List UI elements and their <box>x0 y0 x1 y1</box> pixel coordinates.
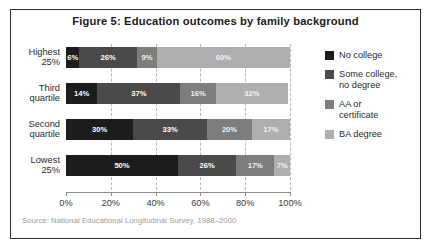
legend-item: Some college,no degree <box>325 69 417 90</box>
bar-row: 30%33%20%17% <box>66 119 290 140</box>
legend-swatch <box>325 51 334 60</box>
legend-label-line: AA or <box>339 99 378 109</box>
category-label-line: 25% <box>0 57 60 68</box>
legend-label-line: certificate <box>339 110 378 120</box>
bar-segment: 17% <box>252 119 290 140</box>
bar-segment: 60% <box>157 47 290 68</box>
bar-segment: 30% <box>66 119 133 140</box>
category-label-line: Lowest <box>0 155 60 166</box>
legend-swatch <box>325 100 334 109</box>
x-axis-tick-label: 40% <box>146 198 164 208</box>
x-axis-tick-label: 60% <box>191 198 209 208</box>
x-axis-tick <box>111 192 112 196</box>
bar-segment: 6% <box>66 47 79 68</box>
plot-area: 6%26%9%60%14%37%16%32%30%33%20%17%50%26%… <box>66 44 290 190</box>
bar-segment: 9% <box>137 47 157 68</box>
bar-segment: 37% <box>97 83 180 104</box>
x-axis-line <box>66 192 290 193</box>
legend-label-line: Some college, <box>339 69 397 79</box>
legend-label: AA orcertificate <box>339 99 378 120</box>
bar-rows: 6%26%9%60%14%37%16%32%30%33%20%17%50%26%… <box>66 44 290 190</box>
x-axis-tick-label: 20% <box>102 198 120 208</box>
bar-segment: 20% <box>207 119 252 140</box>
category-label-line: Third <box>0 83 60 94</box>
category-label-line: quartile <box>0 93 60 104</box>
chart-legend: No collegeSome college,no degreeAA orcer… <box>325 50 417 148</box>
legend-swatch <box>325 130 334 139</box>
category-label: Thirdquartile <box>0 83 60 104</box>
x-axis-tick <box>245 192 246 196</box>
category-label-line: Second <box>0 119 60 130</box>
bar-segment: 16% <box>180 83 216 104</box>
bar-segment: 26% <box>79 47 137 68</box>
x-axis-tick-label: 0% <box>59 198 72 208</box>
bar-segment: 14% <box>66 83 97 104</box>
bar-segment: 50% <box>66 155 178 176</box>
legend-item: AA orcertificate <box>325 99 417 120</box>
legend-item: BA degree <box>325 129 417 139</box>
bar-segment: 26% <box>178 155 236 176</box>
legend-label-line: No college <box>339 50 382 60</box>
legend-label: No college <box>339 50 382 60</box>
bar-segment: 33% <box>133 119 207 140</box>
legend-item: No college <box>325 50 417 60</box>
legend-swatch <box>325 70 334 79</box>
category-label-line: Highest <box>0 47 60 58</box>
bar-row: 50%26%17%7% <box>66 155 290 176</box>
legend-label-line: no degree <box>339 80 397 90</box>
x-axis-tick <box>156 192 157 196</box>
category-label-line: 25% <box>0 165 60 176</box>
x-axis-tick <box>290 192 291 196</box>
bar-segment: 32% <box>216 83 288 104</box>
bar-row: 14%37%16%32% <box>66 83 290 104</box>
category-label: Lowest25% <box>0 155 60 176</box>
category-label: Secondquartile <box>0 119 60 140</box>
x-axis-tick-label: 100% <box>278 198 302 208</box>
x-axis-tick <box>200 192 201 196</box>
chart-title: Figure 5: Education outcomes by family b… <box>0 15 431 27</box>
legend-label: BA degree <box>339 129 382 139</box>
legend-label-line: BA degree <box>339 129 382 139</box>
figure-container: Figure 5: Education outcomes by family b… <box>0 0 431 249</box>
bar-row: 6%26%9%60% <box>66 47 290 68</box>
bar-segment: 17% <box>236 155 274 176</box>
category-label-line: quartile <box>0 129 60 140</box>
category-label: Highest25% <box>0 47 60 68</box>
source-note: Source: National Educational Longitudina… <box>22 216 236 225</box>
x-axis-tick-label: 80% <box>236 198 254 208</box>
x-axis-tick <box>66 192 67 196</box>
legend-label: Some college,no degree <box>339 69 397 90</box>
bar-segment: 7% <box>274 155 290 176</box>
category-axis-labels: Highest25%ThirdquartileSecondquartileLow… <box>0 44 60 190</box>
